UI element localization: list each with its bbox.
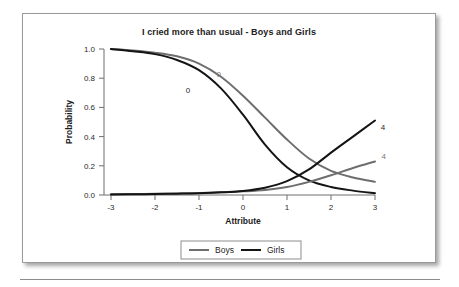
legend-label-boys[interactable]: Boys xyxy=(215,245,234,255)
y-tick-label: 0.2 xyxy=(84,162,96,171)
y-axis-title: Probability xyxy=(64,100,74,144)
footer-divider xyxy=(20,279,440,280)
curve-label-girls-4: 4 xyxy=(381,123,386,132)
y-tick-label: 0.4 xyxy=(84,133,96,142)
y-tick-label: 0.6 xyxy=(84,103,96,112)
y-tick-label: 0.0 xyxy=(84,191,96,200)
x-tick-label: -2 xyxy=(151,203,159,212)
x-axis-title: Attribute xyxy=(225,216,261,226)
series-line-girls-4 xyxy=(111,121,375,195)
curve-label-boys-0: 0 xyxy=(217,70,222,79)
x-tick-label: 0 xyxy=(241,203,246,212)
series-layer xyxy=(111,49,375,194)
y-tick-label: 0.8 xyxy=(84,74,96,83)
x-tick-label: 2 xyxy=(329,203,334,212)
series-line-boys-4 xyxy=(111,161,375,194)
chart-canvas: 0.0 0.2 0.4 0.6 0.8 1.0 -3 -2 -1 0 xyxy=(23,14,437,264)
plot-area: 0.0 0.2 0.4 0.6 0.8 1.0 -3 -2 -1 0 xyxy=(23,14,437,264)
x-tick-label: -3 xyxy=(107,203,115,212)
y-axis-ticks: 0.0 0.2 0.4 0.6 0.8 1.0 xyxy=(84,45,104,200)
chart-legend[interactable]: Boys Girls xyxy=(181,241,301,259)
x-axis-ticks: -3 -2 -1 0 1 2 3 xyxy=(107,195,377,212)
curve-label-girls-0: 0 xyxy=(186,86,191,95)
x-tick-label: 1 xyxy=(285,203,290,212)
curve-label-boys-4: 4 xyxy=(382,152,387,161)
y-tick-label: 1.0 xyxy=(84,45,96,54)
x-tick-label: 3 xyxy=(373,203,378,212)
legend-label-girls[interactable]: Girls xyxy=(267,245,284,255)
figure-frame: I cried more than usual - Boys and Girls… xyxy=(22,13,436,263)
x-tick-label: -1 xyxy=(195,203,203,212)
